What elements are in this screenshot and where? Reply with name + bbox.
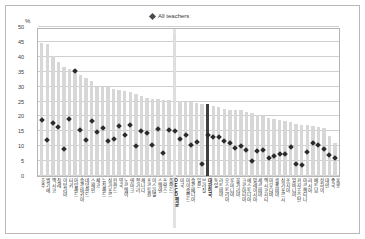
bar[interactable] xyxy=(267,118,270,176)
bar[interactable] xyxy=(140,96,143,176)
bar[interactable] xyxy=(134,94,137,176)
y-axis-unit-label: % xyxy=(25,18,30,24)
bar[interactable] xyxy=(84,78,87,176)
y-axis-tick-label: 30 xyxy=(6,85,24,91)
y-axis-tick-label: 40 xyxy=(6,55,24,61)
legend-label: All teachers xyxy=(158,13,189,20)
bar-korea[interactable] xyxy=(206,104,209,176)
y-axis-tick-label: 20 xyxy=(6,114,24,120)
bar[interactable] xyxy=(234,110,237,176)
bar[interactable] xyxy=(73,69,76,176)
bar[interactable] xyxy=(162,100,165,176)
bar[interactable] xyxy=(90,81,93,176)
bar[interactable] xyxy=(317,127,320,176)
bar[interactable] xyxy=(62,67,65,176)
bar[interactable] xyxy=(300,125,303,176)
y-axis-tick-label: 35 xyxy=(6,70,24,76)
bar[interactable] xyxy=(167,100,170,176)
chart-screenshot: % All teachers 05101520253035404550 호주벨기… xyxy=(0,0,365,239)
bar[interactable] xyxy=(129,92,132,176)
x-axis-tick-label: 홍콩 xyxy=(335,178,340,230)
y-axis-tick-label: 15 xyxy=(6,129,24,135)
bar-oecd-average[interactable] xyxy=(173,34,176,176)
y-axis-tick-label: 0 xyxy=(6,174,24,180)
bar-slot[interactable] xyxy=(332,29,338,176)
x-axis-tick-labels: 호주벨기에멕시코칠레이탈리아터키아일랜드슬로바키아네덜란드스페인체코뉴질랜드싱가… xyxy=(37,178,340,230)
bar[interactable] xyxy=(117,90,120,176)
y-axis-tick-label: 5 xyxy=(6,159,24,165)
bar[interactable] xyxy=(145,98,148,176)
bar[interactable] xyxy=(101,87,104,176)
bars-and-markers xyxy=(38,29,339,176)
bar[interactable] xyxy=(278,120,281,176)
plot-area xyxy=(37,28,340,177)
bar[interactable] xyxy=(51,56,54,176)
bar[interactable] xyxy=(272,119,275,176)
y-axis-tick-label: 10 xyxy=(6,144,24,150)
gridline xyxy=(38,26,339,27)
bar[interactable] xyxy=(57,62,60,176)
y-axis-tick-label: 50 xyxy=(6,25,24,31)
chart-legend: All teachers xyxy=(150,11,189,21)
bar[interactable] xyxy=(283,121,286,176)
bar[interactable] xyxy=(212,106,215,176)
bar[interactable] xyxy=(256,115,259,176)
bar[interactable] xyxy=(217,107,220,176)
bar[interactable] xyxy=(189,102,192,176)
bar[interactable] xyxy=(151,99,154,176)
x-tick-slot: 홍콩 xyxy=(334,178,340,230)
y-axis-tick-label: 25 xyxy=(6,100,24,106)
bar[interactable] xyxy=(184,102,187,177)
bar[interactable] xyxy=(311,126,314,176)
bar[interactable] xyxy=(79,75,82,176)
y-axis-tick-label: 45 xyxy=(6,40,24,46)
bar[interactable] xyxy=(106,87,109,176)
bar[interactable] xyxy=(46,44,49,176)
diamond-marker-icon xyxy=(149,12,156,19)
bar[interactable] xyxy=(40,43,43,177)
bar[interactable] xyxy=(294,124,297,176)
bar[interactable] xyxy=(68,69,71,176)
bar[interactable] xyxy=(112,89,115,176)
bar[interactable] xyxy=(156,99,159,176)
bar[interactable] xyxy=(245,112,248,176)
bar[interactable] xyxy=(250,113,253,176)
